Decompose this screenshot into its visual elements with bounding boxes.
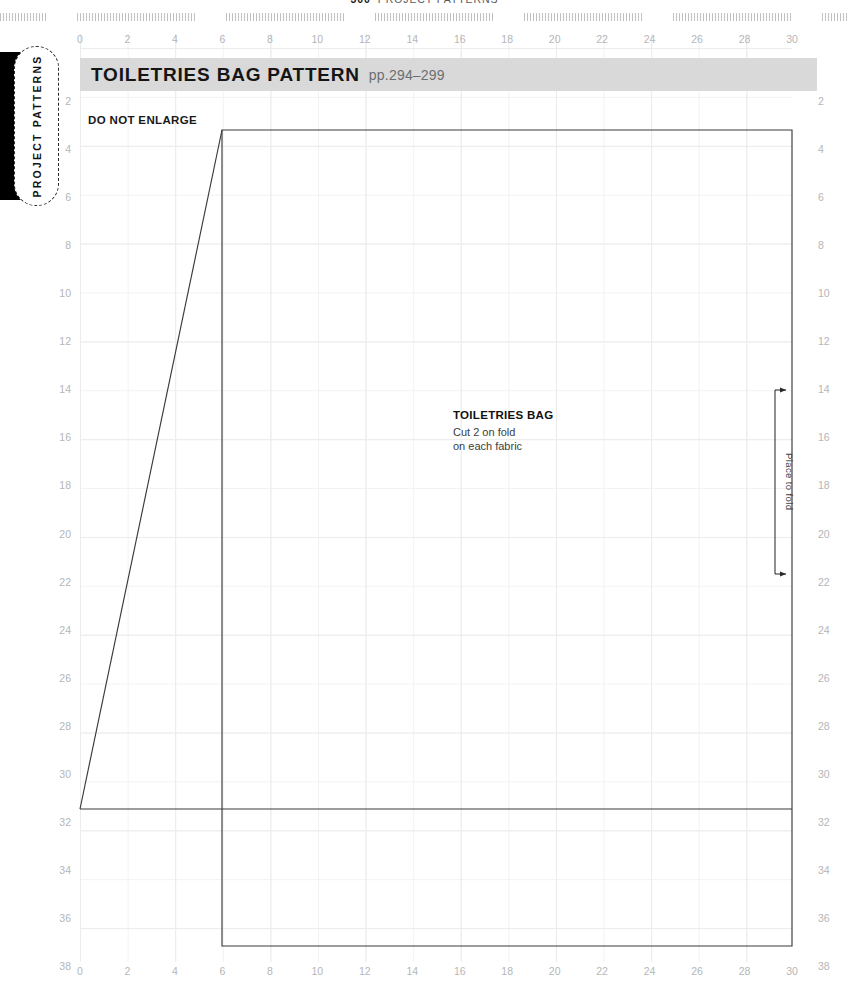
piece-label: TOILETRIES BAG Cut 2 on fold on each fab… xyxy=(453,408,553,453)
place-to-fold-label: Place to fold xyxy=(784,453,795,533)
pattern-outline xyxy=(222,130,792,946)
pattern-page: 300PROJECT PATTERNS 02468101214161820222… xyxy=(0,0,849,982)
piece-label-title: TOILETRIES BAG xyxy=(453,408,553,423)
piece-label-line-1: Cut 2 on fold xyxy=(453,425,553,439)
piece-label-line-2: on each fabric xyxy=(453,439,553,453)
pattern-drawing xyxy=(0,0,849,982)
pattern-taper-edge xyxy=(80,130,222,809)
